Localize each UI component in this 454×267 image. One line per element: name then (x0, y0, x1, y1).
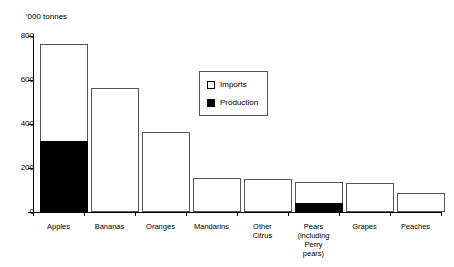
y-axis-tick-label: 600 (0, 76, 34, 84)
legend-label-imports: Imports (220, 81, 247, 89)
x-axis-category-label-line: (including (282, 231, 345, 240)
x-axis-category-label-line: pears) (282, 249, 345, 258)
legend-swatch-production-icon (207, 99, 215, 107)
y-axis-tick-value: 600 (10, 76, 34, 84)
x-axis-category-label-line: Perry (282, 240, 345, 249)
plot-area: 0200400600800 ApplesBananasOrangesMandar… (0, 0, 454, 267)
x-axis-category-label: Peaches (384, 222, 447, 231)
bar-total (244, 179, 292, 212)
legend-item-production: Production (207, 96, 258, 109)
fruit-supply-bar-chart: '000 tonnes 0200400600800 ApplesBananasO… (0, 0, 454, 267)
bar-total (193, 178, 241, 212)
bar-total (91, 88, 139, 212)
bar-segment-production (40, 141, 88, 213)
legend-label-production: Production (220, 99, 258, 107)
y-axis-tick-label: 800 (0, 32, 34, 40)
y-axis-tick-label: 0 (0, 208, 34, 216)
legend-item-imports: Imports (207, 78, 258, 91)
x-axis-tick (33, 208, 34, 216)
bar-total (397, 193, 445, 212)
y-axis-tick-value: 0 (10, 208, 34, 216)
x-axis-category-label-line: Peaches (384, 222, 447, 231)
y-axis-tick-value: 800 (10, 32, 34, 40)
y-axis-tick-label: 200 (0, 164, 34, 172)
y-axis-tick-value: 200 (10, 164, 34, 172)
y-axis-tick-label: 400 (0, 120, 34, 128)
legend-swatch-imports-icon (207, 81, 215, 89)
bar-total (142, 132, 190, 212)
chart-legend: Imports Production (199, 71, 268, 116)
y-axis-tick-value: 400 (10, 120, 34, 128)
bar-total (346, 183, 394, 212)
bar-segment-production (295, 203, 343, 212)
